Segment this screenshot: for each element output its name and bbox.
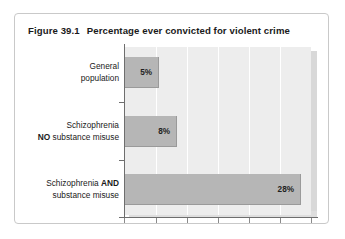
x-axis-tick-15 [218, 218, 219, 223]
category-label-line2: population [81, 73, 119, 83]
category-label-line2: substance misuse [50, 132, 119, 142]
bar-chart: 5% General population 8% Schizophrenia N… [15, 44, 330, 224]
bar-value-label: 8% [158, 127, 170, 136]
y-axis-tick-1 [119, 102, 124, 103]
y-axis-tick-2 [119, 160, 124, 161]
x-axis-tick-20 [249, 218, 250, 223]
x-axis-tick-5 [156, 218, 157, 223]
category-label-schizophrenia-no-substance-misuse: Schizophrenia NO substance misuse [0, 120, 119, 143]
x-axis-tick-10 [187, 218, 188, 223]
figure-title: Figure 39.1Percentage ever convicted for… [28, 25, 290, 36]
plot-3d-shadow-right [311, 51, 317, 215]
x-axis-tick-30 [311, 218, 312, 223]
category-label-line1: General [89, 61, 119, 71]
bar-value-label: 28% [278, 185, 294, 194]
bar-schizophrenia-and-substance-misuse[interactable]: 28% [125, 174, 301, 205]
figure-card: Figure 39.1Percentage ever convicted for… [14, 13, 329, 224]
x-axis-line [124, 217, 318, 218]
bar-general-population[interactable]: 5% [125, 57, 159, 88]
category-label-line1: Schizophrenia [46, 178, 101, 188]
category-label-line2: substance misuse [53, 190, 119, 200]
category-label-line1: Schizophrenia [66, 120, 119, 130]
category-label-emphasis: AND [101, 178, 119, 188]
category-label-schizophrenia-and-substance-misuse: Schizophrenia AND substance misuse [0, 178, 119, 201]
figure-number: Figure 39.1 [28, 25, 80, 36]
bar-schizophrenia-no-substance-misuse[interactable]: 8% [125, 116, 177, 147]
figure-title-text: Percentage ever convicted for violent cr… [87, 25, 290, 36]
x-axis-tick-0 [124, 218, 125, 223]
category-label-general-population: General population [0, 61, 119, 84]
bar-value-label: 5% [140, 68, 152, 77]
category-label-emphasis: NO [38, 132, 50, 142]
x-axis-tick-25 [280, 218, 281, 223]
